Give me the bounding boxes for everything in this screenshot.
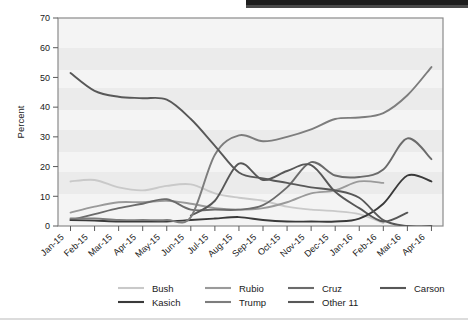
x-tick-label: Apr-16 (400, 232, 427, 258)
y-tick-label: 10 (40, 192, 50, 202)
chart-legend: BushRubioCruzCarsonKasichTrumpOther 11 (118, 283, 445, 308)
plot-background (58, 18, 443, 226)
y-tick-label: 40 (40, 102, 50, 112)
x-tick-label: Oct-15 (256, 232, 283, 258)
chart-figure: 010203040506070 Jan-15Feb-15Mar-15Apr-15… (0, 0, 468, 323)
legend-label-trump: Trump (239, 297, 266, 308)
y-axis-ticks: 010203040506070 (40, 13, 58, 231)
y-tick-label: 30 (40, 132, 50, 142)
legend-label-rubio: Rubio (239, 283, 264, 294)
x-tick-label: Aug-15 (206, 232, 234, 259)
x-tick-label: Feb-15 (62, 232, 90, 259)
x-tick-label: May-15 (133, 232, 162, 260)
x-tick-label: Dec-15 (302, 232, 330, 259)
y-tick-label: 60 (40, 43, 50, 53)
legend-label-kasich: Kasich (152, 297, 181, 308)
y-tick-label: 50 (40, 73, 50, 83)
y-tick-label: 0 (45, 221, 50, 231)
x-tick-label: Mar-15 (86, 232, 114, 259)
x-tick-label: Feb-16 (351, 232, 379, 259)
x-tick-label: Jun-15 (159, 232, 186, 258)
y-tick-label: 20 (40, 162, 50, 172)
x-tick-label: Mar-16 (375, 232, 403, 259)
x-tick-label: Nov-15 (278, 232, 306, 259)
legend-label-other-11: Other 11 (322, 297, 358, 308)
y-axis-title: Percent (15, 105, 26, 138)
line-chart: 010203040506070 Jan-15Feb-15Mar-15Apr-15… (0, 0, 468, 323)
x-axis-ticks: Jan-15Feb-15Mar-15Apr-15May-15Jun-15Jul-… (39, 226, 432, 260)
legend-label-bush: Bush (152, 283, 174, 294)
x-tick-label: Sep-15 (230, 232, 258, 259)
y-tick-label: 70 (40, 13, 50, 23)
x-tick-label: Jan-16 (327, 232, 354, 258)
x-tick-label: Jan-15 (39, 232, 66, 258)
legend-label-cruz: Cruz (322, 283, 342, 294)
legend-label-carson: Carson (414, 283, 445, 294)
